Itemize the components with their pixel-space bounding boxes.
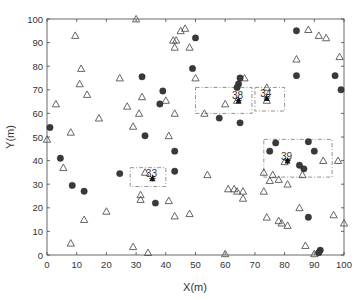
y-tick-label: 60 (32, 108, 43, 119)
circle-marker (272, 140, 278, 146)
x-tick-label: 90 (309, 259, 320, 270)
x-tick-label: 40 (161, 259, 172, 270)
circle-marker (47, 124, 53, 130)
circle-marker (305, 214, 311, 220)
circle-marker (305, 139, 311, 145)
y-tick-label: 80 (32, 61, 43, 72)
circle-marker (160, 88, 166, 94)
x-tick-label: 80 (279, 259, 290, 270)
circle-marker (267, 148, 273, 154)
circle-marker (189, 65, 195, 71)
circle-marker (332, 72, 338, 78)
circle-marker (216, 115, 222, 121)
circle-marker (311, 148, 317, 154)
star-icon (264, 95, 270, 101)
scatter-chart: 0102030405060708090100 01020304050607080… (0, 0, 362, 300)
circle-marker (142, 133, 148, 139)
y-tick-label: 90 (32, 37, 43, 48)
circle-marker (172, 168, 178, 174)
x-tick-label: 70 (250, 259, 261, 270)
circle-marker (237, 75, 243, 81)
y-tick-label: 10 (32, 226, 43, 237)
circle-marker (301, 166, 307, 172)
x-tick-label: 10 (71, 259, 82, 270)
star-icon (236, 97, 242, 103)
x-tick-label: 20 (101, 259, 112, 270)
y-tick-label: 40 (32, 155, 43, 166)
circle-marker (316, 249, 322, 255)
circle-marker (81, 188, 87, 194)
circle-marker (69, 182, 75, 188)
circle-marker (192, 35, 198, 41)
plot-area (47, 19, 344, 255)
x-axis-label: X(m) (183, 281, 207, 293)
circle-marker (57, 155, 63, 161)
y-tick-label: 30 (32, 179, 43, 190)
circle-marker (172, 148, 178, 154)
circle-marker (237, 120, 243, 126)
x-tick-label: 0 (44, 259, 49, 270)
circle-marker (139, 74, 145, 80)
y-axis-label: Y(m) (4, 125, 16, 149)
x-tick-label: 60 (220, 259, 231, 270)
circle-marker (293, 28, 299, 34)
x-tick-label: 30 (131, 259, 142, 270)
x-tick-label: 50 (190, 259, 201, 270)
x-tick-label: 100 (336, 259, 352, 270)
y-tick-label: 0 (38, 250, 43, 261)
y-tick-label: 50 (32, 132, 43, 143)
star-icon (149, 175, 155, 181)
circle-marker (152, 200, 158, 206)
star-icon (285, 158, 291, 164)
circle-marker (338, 87, 344, 93)
circle-marker (117, 170, 123, 176)
circle-marker (157, 101, 163, 107)
circle-marker (293, 72, 299, 78)
y-tick-label: 70 (32, 84, 43, 95)
y-tick-label: 100 (27, 14, 43, 25)
y-tick-label: 20 (32, 202, 43, 213)
